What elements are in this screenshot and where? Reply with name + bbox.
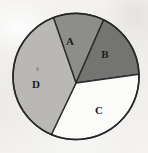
pie-slice-label-d: D (32, 79, 40, 90)
pie-slice-label-c: C (95, 105, 103, 116)
pie-chart-svg (0, 0, 148, 153)
pie-chart-figure: A B C D (0, 0, 148, 153)
pie-slice-label-b: B (101, 49, 109, 60)
pie-slice-label-a: A (66, 36, 74, 47)
